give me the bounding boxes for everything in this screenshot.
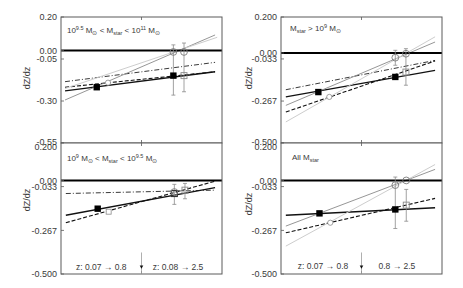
panel-bottom-left: 0.2000.00-0.033-0.267-0.500109 M⊙ < Msta… — [31, 142, 222, 279]
panels-container: 0.200.00-0.05-0.30-0.55109.5 M⊙ < Mstar … — [31, 12, 442, 279]
y-tick-label: -0.267 — [251, 96, 277, 106]
y-tick-label: -0.05 — [36, 54, 57, 64]
y-axis-title-bottom-right: dZ/dz — [244, 192, 254, 215]
small-open-circle-marker — [105, 80, 110, 85]
plot-area — [281, 17, 442, 143]
filled-square-marker — [392, 74, 398, 80]
filled-square-marker — [95, 205, 101, 211]
y-tick-label: -0.30 — [36, 96, 57, 106]
redshift-range-label: z: 0.07 → 0.8 — [76, 262, 127, 272]
redshift-range-label: z: 0.08 → 2.5 — [153, 262, 204, 272]
y-tick-label: 0.200 — [34, 142, 57, 152]
y-tick-label: 0.200 — [254, 142, 277, 152]
y-tick-label: -0.500 — [31, 269, 57, 279]
panel-top-right: 0.2000.00-0.033-0.267-0.500Mstar > 109 M… — [251, 12, 442, 146]
y-tick-label: -0.500 — [251, 269, 277, 279]
y-axis-title-top-right: dZ/dz — [244, 66, 254, 89]
y-tick-label: 0.200 — [254, 12, 277, 22]
y-tick-label: -0.267 — [251, 226, 277, 236]
panel-top-left: 0.200.00-0.05-0.30-0.55109.5 M⊙ < Mstar … — [36, 12, 222, 146]
small-open-square-marker — [106, 209, 111, 214]
filled-square-marker — [316, 210, 322, 216]
filled-square-marker — [94, 84, 100, 90]
filled-square-marker — [170, 72, 176, 78]
y-tick-label: -0.267 — [31, 226, 57, 236]
redshift-range-label: 0.8 → 2.5 — [378, 261, 415, 271]
figure: 0.200.00-0.05-0.30-0.55109.5 M⊙ < Mstar … — [0, 0, 463, 288]
small-open-circle-marker — [327, 94, 332, 99]
filled-square-marker — [392, 206, 398, 212]
y-tick-label: 0.20 — [39, 12, 57, 22]
y-axis-title-bottom-left: dZ/dz — [22, 188, 32, 211]
y-tick-label: -0.033 — [251, 182, 277, 192]
plot-area — [61, 17, 222, 143]
y-axis-title-top-left: dZ/dz — [22, 66, 32, 89]
redshift-range-label: z: 0.07 → 0.8 — [298, 261, 349, 271]
panel-bottom-right: 0.2000.00-0.033-0.267-0.500All Mstarz: 0… — [251, 142, 442, 279]
y-tick-label: -0.033 — [251, 54, 277, 64]
y-tick-label: -0.033 — [31, 182, 57, 192]
small-open-circle-marker — [328, 220, 333, 225]
filled-square-marker — [315, 89, 321, 95]
